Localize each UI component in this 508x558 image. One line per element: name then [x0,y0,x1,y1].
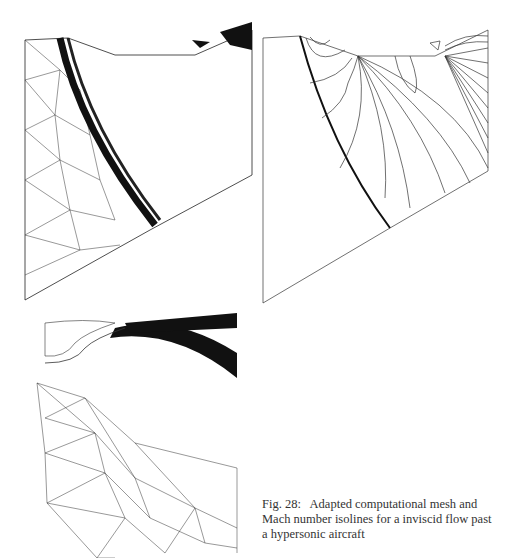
figure-caption: Fig. 28: Adapted computational mesh and … [262,497,507,542]
caption-line-2: Mach number isolines for a inviscid flow… [262,512,507,527]
mesh-panel-top [20,20,255,305]
caption-line-3: a hypersonic aircraft [262,527,507,542]
mesh-top-figure [20,20,255,305]
mach-isolines-figure [260,28,490,308]
caption-line-1: Fig. 28: Adapted computational mesh and [262,497,507,512]
mesh-panel-bottom [25,268,240,558]
mach-isolines-panel [260,28,490,308]
mesh-bottom-figure [25,268,240,558]
